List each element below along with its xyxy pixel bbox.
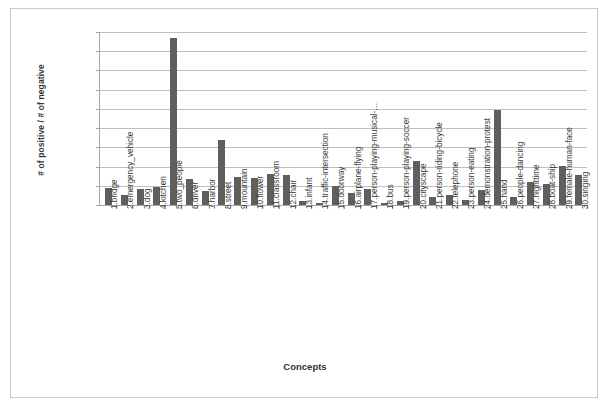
x-axis-tick-label: 17.person-playing-musical-… (370, 103, 379, 209)
x-axis-tick-label: 26.people-dancing (516, 142, 525, 209)
x-axis-tick-label: 1.bridge (110, 179, 119, 209)
x-axis-tick-label: 18.bus (386, 184, 395, 209)
chart-frame: # of positive / # of negative 0.000.050.… (10, 8, 598, 398)
x-axis-tick-label: 28.boat-ship (548, 164, 557, 209)
x-axis-tick-label: 2.emergency_vehicle (126, 132, 135, 209)
y-axis-tick (96, 109, 100, 110)
y-axis-tick (96, 167, 100, 168)
x-axis-tick-label: 29.female-human-face (565, 127, 574, 209)
y-axis-tick (96, 32, 100, 33)
x-axis-tick-label: 13.infant (305, 178, 314, 209)
y-axis-tick (96, 147, 100, 148)
x-axis-tick-label: 8.street (224, 182, 233, 209)
x-axis-tick-label: 14.traffic-intersection (321, 133, 330, 209)
x-axis-tick-label: 4.kitchen (159, 176, 168, 209)
x-axis-tick-label: 19.person-playing-soccer (402, 117, 411, 209)
x-axis-tick-label: 21.person-riding-bicycle (435, 122, 444, 209)
x-axis-tick-label: 27.nighttime (532, 164, 541, 209)
x-axis-tick-label: 20.cityscape (419, 163, 428, 209)
y-axis-tick (96, 70, 100, 71)
x-axis-tick-label: 12.chair (289, 180, 298, 209)
y-axis-tick (96, 128, 100, 129)
y-axis-title-text: # of positive / # of negative (36, 64, 46, 176)
x-axis-tick-label: 25.hand (500, 179, 509, 209)
x-axis-tick-label: 23.person-eating (467, 148, 476, 209)
x-axis-tick-label: 9.mountain (240, 168, 249, 209)
x-axis-title: Concepts (11, 361, 599, 372)
x-axis-tick-label: 5.two_people (175, 160, 184, 209)
x-axis-tick-label: 3.dog (143, 189, 152, 210)
y-axis-title: # of positive / # of negative (33, 27, 49, 213)
x-axis-tick-label: 22.telephone (451, 162, 460, 209)
x-axis-tick-label: 6.driver (191, 182, 200, 209)
x-axis-tick-label: 30.singing (581, 172, 590, 209)
x-axis-tick-label: 16.airplane-flying (354, 147, 363, 209)
x-axis-tick-label: 15.doorway (337, 167, 346, 209)
x-axis-labels: 1.bridge2.emergency_vehicle3.dog4.kitche… (99, 209, 586, 349)
x-axis-tick-label: 10.flower (256, 176, 265, 209)
y-axis-tick (96, 186, 100, 187)
x-axis-tick-label: 24.demonstration-protest (483, 118, 492, 209)
x-axis-tick-label: 7.harbor (208, 179, 217, 210)
y-axis-tick (96, 205, 100, 206)
gridline (100, 32, 587, 33)
y-axis-tick (96, 90, 100, 91)
y-axis-tick (96, 51, 100, 52)
x-axis-tick-label: 11.classroom (272, 161, 281, 209)
